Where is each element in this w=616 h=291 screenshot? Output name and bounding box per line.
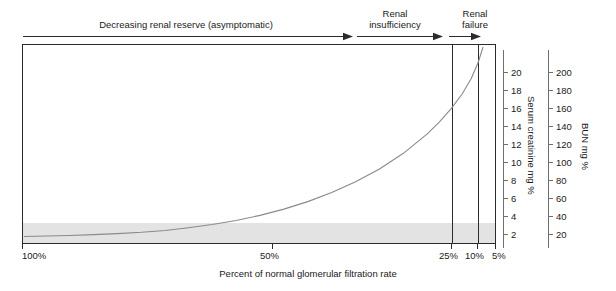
bun-label-120: 120 — [556, 139, 572, 150]
creatinine-tick-4 — [504, 216, 508, 217]
xtick-label-5: 5% — [492, 250, 506, 261]
creatinine-label-2: 2 — [511, 229, 516, 240]
bun-axis-line — [548, 50, 549, 248]
creatinine-label-16: 16 — [511, 103, 522, 114]
bun-tick-20 — [549, 234, 553, 235]
creatinine-tick-16 — [504, 108, 508, 109]
bun-label-40: 40 — [556, 211, 567, 222]
bun-label-60: 60 — [556, 193, 567, 204]
phase-arrows-group — [0, 31, 616, 42]
xtick-mark-100 — [22, 244, 23, 249]
bun-tick-60 — [549, 198, 553, 199]
creatinine-label-10: 10 — [511, 157, 522, 168]
creatinine-tick-12 — [504, 144, 508, 145]
creatinine-tick-2 — [504, 234, 508, 235]
bun-tick-80 — [549, 180, 553, 181]
bun-label-140: 140 — [556, 121, 572, 132]
bun-label-80: 80 — [556, 175, 567, 186]
bun-tick-100 — [549, 162, 553, 163]
creatinine-label-12: 12 — [511, 139, 522, 150]
creatinine-tick-6 — [504, 198, 508, 199]
bun-tick-40 — [549, 216, 553, 217]
bun-label-100: 100 — [556, 157, 572, 168]
phase-label-renal-failure: Renal failure — [446, 8, 504, 30]
creatinine-tick-14 — [504, 126, 508, 127]
xtick-label-10: 10% — [465, 250, 484, 261]
creatinine-tick-8 — [504, 180, 508, 181]
phase-label-renal-failure-line1: Renal — [446, 8, 504, 19]
bun-tick-180 — [549, 90, 553, 91]
xtick-label-25: 25% — [439, 250, 458, 261]
phase-header-band: Decreasing renal reserve (asymptomatic) … — [0, 0, 616, 44]
xtick-mark-10 — [477, 244, 478, 249]
bun-axis-title: BUN mg % — [580, 123, 591, 170]
creatinine-label-6: 6 — [511, 193, 516, 204]
bun-label-200: 200 — [556, 67, 572, 78]
xtick-label-100: 100% — [22, 250, 46, 261]
phase-label-renal-insufficiency-line1: Renal — [352, 8, 438, 19]
creatinine-tick-10 — [504, 162, 508, 163]
xtick-mark-25 — [451, 244, 452, 249]
creatinine-label-14: 14 — [511, 121, 522, 132]
bun-tick-200 — [549, 72, 553, 73]
creatinine-label-4: 4 — [511, 211, 516, 222]
xtick-label-50: 50% — [260, 250, 279, 261]
bun-tick-120 — [549, 144, 553, 145]
phase-label-renal-insufficiency-line2: insufficiency — [352, 19, 438, 30]
renal-function-figure: Decreasing renal reserve (asymptomatic) … — [0, 0, 616, 291]
bun-label-180: 180 — [556, 85, 572, 96]
phase-label-renal-insufficiency: Renal insufficiency — [352, 8, 438, 30]
creatinine-axis-line — [503, 50, 504, 248]
bun-tick-140 — [549, 126, 553, 127]
phase-label-renal-failure-line2: failure — [446, 19, 504, 30]
creatinine-label-20: 20 — [511, 67, 522, 78]
creatinine-label-18: 18 — [511, 85, 522, 96]
creatinine-label-8: 8 — [511, 175, 516, 186]
bun-label-160: 160 — [556, 103, 572, 114]
xtick-mark-5 — [495, 244, 496, 249]
phase-label-decreasing-renal-reserve: Decreasing renal reserve (asymptomatic) — [22, 19, 350, 30]
serum-creatinine-curve — [23, 45, 495, 243]
bun-tick-160 — [549, 108, 553, 109]
x-axis-caption: Percent of normal glomerular filtration … — [0, 268, 616, 279]
bun-label-20: 20 — [556, 229, 567, 240]
xtick-mark-50 — [272, 244, 273, 249]
creatinine-tick-18 — [504, 90, 508, 91]
creatinine-tick-20 — [504, 72, 508, 73]
creatinine-axis-title: Serum creatinine mg % — [526, 96, 537, 195]
plot-area — [22, 44, 496, 244]
